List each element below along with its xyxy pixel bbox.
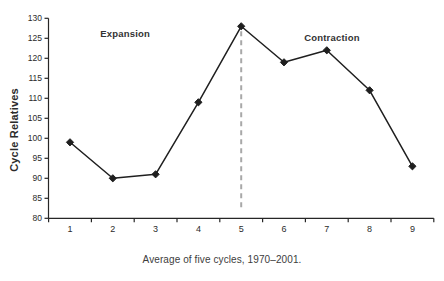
y-tick-label: 80 (33, 213, 43, 223)
data-point-marker (409, 163, 416, 170)
business-cycle-chart-figure: 13012512011511010510095908580123456789 C… (0, 0, 444, 281)
x-tick-label: 7 (324, 224, 329, 234)
x-tick-label: 3 (153, 224, 158, 234)
y-tick-label: 125 (28, 33, 42, 43)
data-point-marker (152, 171, 159, 178)
y-tick-label: 105 (28, 113, 42, 123)
annotation-contraction: Contraction (304, 32, 360, 43)
y-tick-label: 95 (33, 153, 43, 163)
y-tick-label: 120 (28, 53, 42, 63)
data-point-marker (195, 99, 202, 106)
y-tick-label: 110 (28, 93, 42, 103)
y-tick-label: 85 (33, 193, 43, 203)
y-tick-label: 130 (28, 13, 42, 23)
x-tick-label: 4 (196, 224, 201, 234)
cycle-relatives-series-line (70, 26, 412, 178)
y-tick-label: 90 (33, 173, 43, 183)
x-tick-label: 5 (239, 224, 244, 234)
y-axis-title: Cycle Relatives (8, 88, 20, 172)
x-tick-label: 8 (367, 224, 372, 234)
chart-caption: Average of five cycles, 1970–2001. (0, 254, 444, 265)
x-tick-label: 9 (410, 224, 415, 234)
x-tick-label: 6 (281, 224, 286, 234)
y-tick-label: 115 (28, 73, 42, 83)
y-tick-label: 100 (28, 133, 42, 143)
cycle-relatives-line-chart: 13012512011511010510095908580123456789 (0, 0, 444, 281)
annotation-expansion: Expansion (100, 28, 150, 39)
x-tick-label: 1 (67, 224, 72, 234)
x-tick-label: 2 (110, 224, 115, 234)
